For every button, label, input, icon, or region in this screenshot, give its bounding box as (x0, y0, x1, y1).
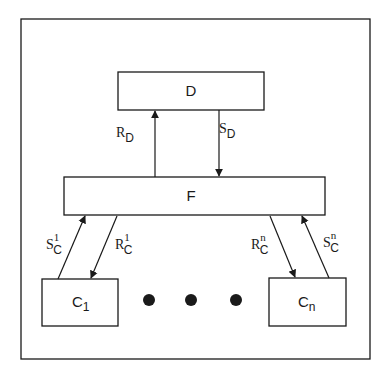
edge-rd-sub: D (125, 131, 134, 145)
edge-rc1-sup: 1 (124, 231, 130, 243)
edge-rc1: R1C (91, 216, 133, 278)
node-cn: Cn (269, 278, 346, 326)
node-c1: C1 (42, 279, 118, 326)
node-cn-sub: n (309, 300, 316, 314)
edge-sc1-sub: C (53, 243, 62, 257)
edge-scn-sup: n (331, 229, 337, 241)
edge-scn-label: SnC (323, 229, 339, 255)
ellipsis-dots (143, 294, 242, 306)
edge-sd-sub: D (227, 127, 236, 141)
edge-scn-sub: C (330, 241, 339, 255)
edge-rcn-sub: C (260, 243, 269, 257)
node-f-label: F (186, 187, 195, 204)
edge-sd-base: S (219, 121, 227, 136)
edge-rcn-label: RnC (251, 231, 269, 257)
edge-sd: SD (219, 110, 236, 176)
node-d-label: D (186, 82, 197, 99)
edge-sc1-label: S1C (46, 231, 62, 257)
edge-sc1: S1C (46, 216, 85, 279)
node-f: F (64, 177, 325, 215)
edge-sc1-sup: 1 (54, 231, 60, 243)
edge-rd-label: RD (116, 125, 134, 145)
diagram-canvas: D F C1 Cn RD SD (0, 0, 389, 376)
edge-scn: SnC (302, 216, 339, 278)
node-c1-sub: 1 (83, 300, 90, 314)
edge-rc1-label: R1C (115, 231, 133, 257)
edge-rcn-sup: n (260, 231, 266, 243)
edge-rd: RD (116, 111, 155, 177)
node-cn-base: C (298, 293, 309, 310)
edge-rcn: RnC (251, 216, 295, 277)
node-c1-base: C (72, 293, 83, 310)
edge-rc1-sub: C (124, 243, 133, 257)
node-d: D (118, 72, 264, 110)
edge-sd-label: SD (219, 121, 236, 141)
